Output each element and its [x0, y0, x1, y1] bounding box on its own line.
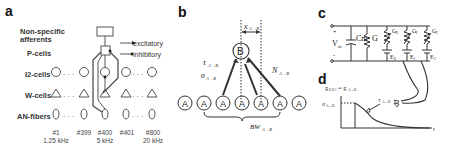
svg-text:t: t [433, 125, 435, 132]
row-label-afferents: afferents [20, 35, 52, 44]
panel-c-circuit: + - V m Cm G G E G I G C E E E I E C [0, 0, 458, 149]
svg-text:G: G [392, 28, 397, 34]
svg-text:A→B: A→B [326, 104, 335, 108]
channel-399-index: #399 [74, 129, 94, 137]
svg-text:E: E [394, 57, 396, 61]
svg-text:A: A [296, 99, 302, 109]
svg-text:E: E [410, 54, 414, 60]
channel-401-index: #401 [117, 129, 137, 137]
channel-800-index: #800 [143, 129, 163, 137]
svg-text:. . .: . . . [132, 110, 143, 119]
panel-d-label: d [318, 71, 327, 87]
svg-text:A: A [201, 99, 207, 109]
svg-text:E: E [390, 54, 394, 60]
svg-text:G: G [432, 28, 437, 34]
svg-text:. . .: . . . [132, 68, 143, 77]
pcell-square [101, 46, 110, 55]
svg-text:C: C [436, 31, 439, 35]
panel-d-plot: g E/I/C = g A→B σ A→B τ A→B t [0, 0, 458, 149]
svg-text:A→B: A→B [207, 63, 218, 68]
svg-text:A→B: A→B [278, 71, 289, 76]
row-label-i2cells: I2-cells [25, 70, 50, 79]
panel-b-diagram: B A A A A A A A x A→B τ A→B σ A→B N A→B … [0, 0, 458, 149]
svg-text:m: m [338, 44, 342, 49]
svg-text:A→B: A→B [261, 127, 272, 132]
svg-text:A: A [182, 99, 188, 109]
svg-text:. . .: . . . [63, 90, 74, 99]
svg-text:A→B: A→B [382, 100, 391, 104]
svg-text:C: C [434, 57, 437, 61]
row-label-anfibers: AN-fibers [17, 112, 51, 121]
panel-a-label: a [5, 3, 13, 19]
svg-text:I: I [416, 31, 418, 35]
svg-text:-: - [333, 51, 336, 59]
row-label-pcells: P-cells [27, 49, 51, 58]
legend-inhibitory: inhibitory [133, 51, 161, 58]
svg-text:A: A [258, 99, 264, 109]
svg-text:BW: BW [250, 123, 261, 131]
svg-text:Cm: Cm [356, 34, 368, 43]
svg-text:+: + [333, 29, 337, 35]
svg-text:σ: σ [322, 100, 326, 107]
svg-text:x: x [243, 22, 248, 31]
svg-text:τ: τ [378, 96, 381, 103]
svg-text:= g: = g [338, 84, 347, 91]
channel-1-index: #1 [46, 129, 66, 137]
channel-1-freq: 1.25 kHz [41, 137, 71, 145]
svg-text:τ: τ [203, 58, 207, 67]
svg-text:A→B: A→B [248, 26, 259, 31]
svg-text:E: E [396, 31, 398, 35]
svg-text:V: V [332, 39, 338, 48]
svg-text:A→B: A→B [205, 76, 216, 81]
svg-text:A→B: A→B [348, 88, 357, 92]
svg-text:A: A [220, 99, 226, 109]
panel-b-label: b [178, 4, 187, 20]
svg-text:E: E [430, 54, 434, 60]
panel-a-diagram: . . .. . . . . .. . . . . .. . . [0, 0, 458, 149]
svg-text:E/I/C: E/I/C [329, 88, 337, 92]
node-b: B [237, 46, 244, 57]
svg-text:. . .: . . . [132, 90, 143, 99]
panel-c-label: c [318, 5, 326, 21]
svg-text:G: G [412, 28, 417, 34]
channel-400-index: #400 [95, 129, 115, 137]
legend-excitatory: excitatory [133, 40, 163, 47]
svg-text:N: N [271, 66, 278, 75]
channel-400-freq: 5 kHz [90, 137, 120, 145]
channel-800-freq: 20 kHz [138, 137, 168, 145]
svg-text:I: I [414, 57, 416, 61]
svg-text:A: A [277, 99, 283, 109]
svg-text:σ: σ [201, 71, 206, 80]
afferent-box [97, 27, 113, 36]
row-label-wcells: W-cells [25, 91, 51, 100]
svg-text:G: G [372, 34, 378, 43]
svg-text:. . .: . . . [63, 110, 74, 119]
svg-text:. . .: . . . [63, 68, 74, 77]
svg-text:A: A [239, 99, 245, 109]
